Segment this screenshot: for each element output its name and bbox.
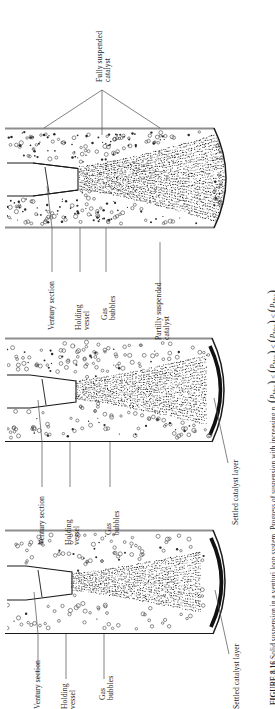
label-settled-catalyst-layer-bottom: Settled catalyst layer <box>233 644 241 709</box>
label-gas-bubbles-middle: Gas bubbles <box>105 511 121 535</box>
venturi-section-top <box>0 163 78 196</box>
math-term: (PMex) <box>270 381 275 403</box>
math-term: (PMex) <box>270 320 275 342</box>
panel-middle-vessel <box>0 338 224 442</box>
panel-middle-contents <box>0 340 212 439</box>
label-gas-bubbles-bottom: Gas bubbles <box>99 676 115 700</box>
label-ventury-section-bottom: Ventury section <box>34 660 42 709</box>
panel-bottom-vessel <box>0 530 225 634</box>
label-holding-vessel-top: Holding vessel <box>75 304 91 330</box>
jet-spray-bottom <box>71 552 201 612</box>
label-partially-suspended-catalyst: Partilly suspended catalyst <box>155 282 171 340</box>
venturi-section-bottom <box>0 566 72 600</box>
panel-bottom-contents <box>0 533 205 630</box>
figure-caption: FIGURE 8.16 Solid suspension in a ventur… <box>266 290 275 705</box>
panel-top-vessel <box>0 128 227 228</box>
label-holding-vessel-bottom: Holding vessel <box>61 683 77 709</box>
label-gas-bubbles-top: Gas bubbles <box>101 296 117 320</box>
leader-settled-bot <box>215 590 229 654</box>
label-fully-suspended-catalyst: Fully suspended catalyst <box>96 31 112 82</box>
math-term: (PMex) <box>270 350 275 372</box>
figure-caption-math: p. (PMex) < (PMex) < (PMex) < (PMex) <box>270 290 275 411</box>
label-ventury-section-top: Ventury section <box>48 281 56 330</box>
figure-8-16: Fully suspended catalyst Ventury section… <box>0 0 275 709</box>
figure-caption-text: Solid suspension in a venturi loop syste… <box>269 413 275 659</box>
label-holding-vessel-middle: Holding vessel <box>65 519 81 545</box>
figure-number: FIGURE 8.16 <box>269 661 275 705</box>
label-settled-catalyst-layer-middle: Settled catalyst layer <box>232 460 240 525</box>
panel-top-contents <box>0 131 227 226</box>
figure-drawing <box>0 0 275 709</box>
label-ventury-section-middle: Ventury section <box>38 496 46 545</box>
jet-spray-top <box>79 131 227 225</box>
math-term: (PMex) <box>270 290 275 312</box>
